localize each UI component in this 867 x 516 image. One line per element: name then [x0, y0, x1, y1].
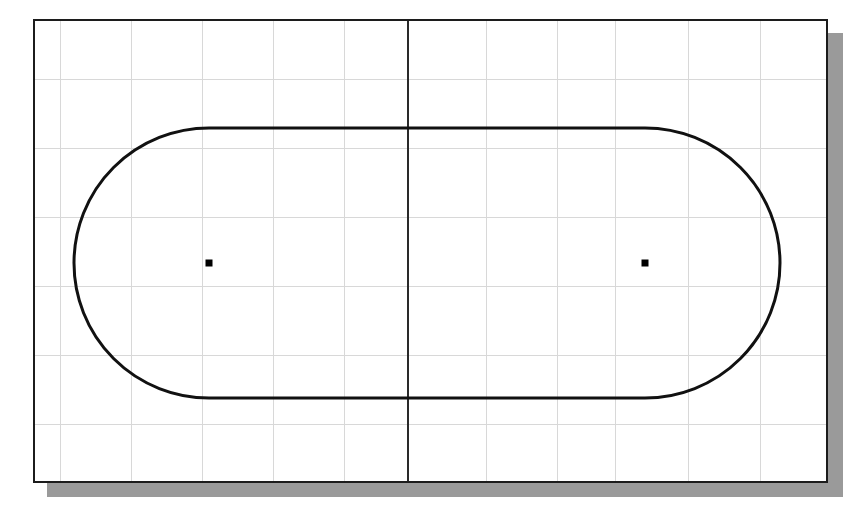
cad-sketch-window — [0, 0, 867, 516]
geometry-layer[interactable] — [35, 21, 826, 481]
slot-outline-path[interactable] — [74, 128, 780, 398]
drawing-sheet[interactable] — [33, 19, 828, 483]
sketch-canvas[interactable] — [35, 21, 826, 481]
right-center-point[interactable] — [642, 260, 649, 267]
left-center-point[interactable] — [206, 260, 213, 267]
